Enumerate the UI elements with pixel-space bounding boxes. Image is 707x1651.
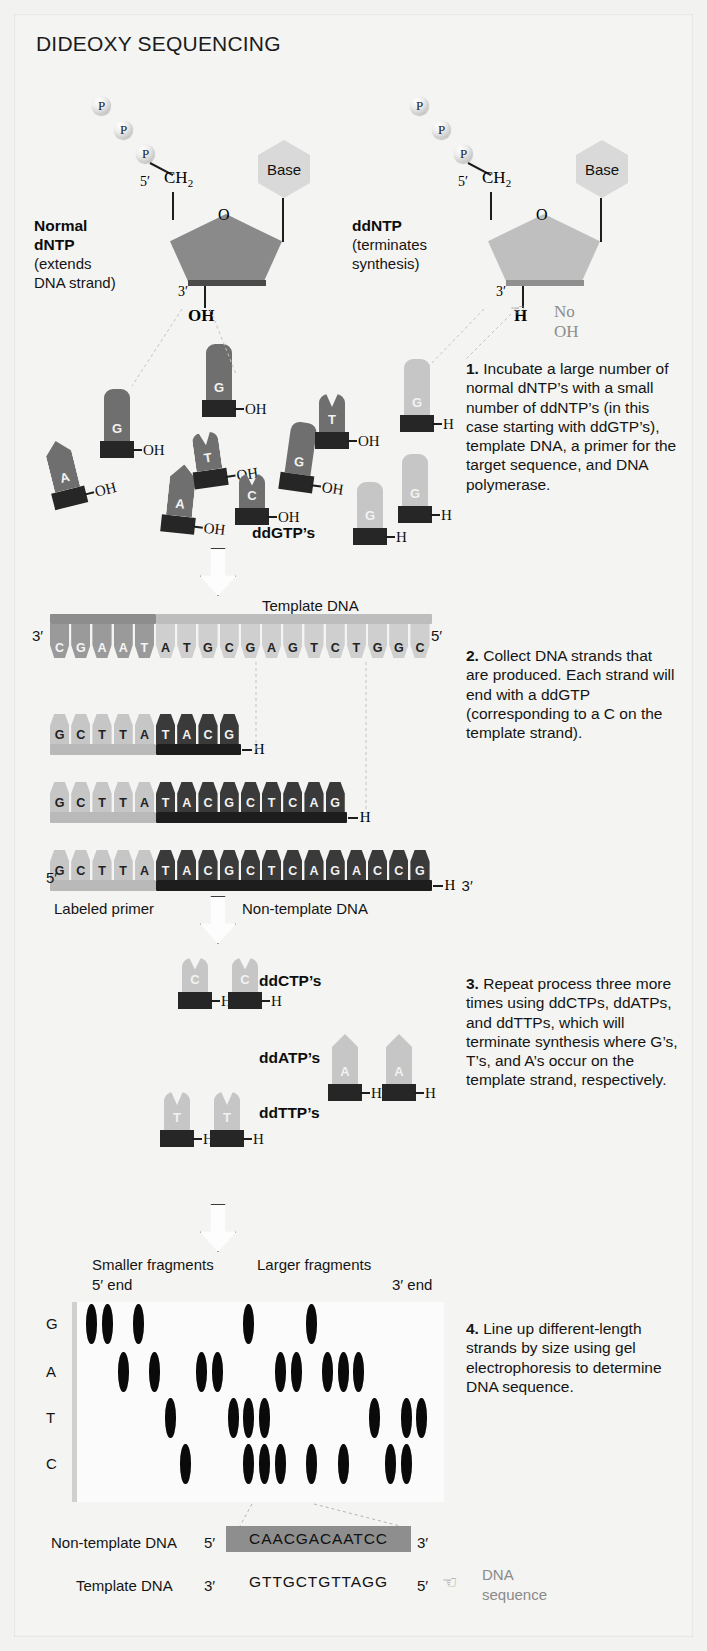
terminal-bond xyxy=(242,749,252,751)
ch2-label: CH2 xyxy=(164,168,193,189)
product-base: T xyxy=(92,850,111,880)
terminal-h-label: H xyxy=(254,741,265,758)
gel-band xyxy=(369,1398,380,1438)
gel-left-edge xyxy=(72,1302,77,1502)
readout-template-5: 5′ xyxy=(417,1577,428,1594)
phosphate-group-2: P xyxy=(432,120,451,139)
gel-band xyxy=(401,1444,412,1484)
product-base: A xyxy=(347,850,366,880)
ch2-label: CH2 xyxy=(482,168,511,189)
template-base: G xyxy=(241,624,260,658)
flow-arrow-1 xyxy=(200,548,236,596)
terminal-group-label: OH xyxy=(188,306,214,326)
product-base: G xyxy=(326,782,345,812)
nucleotide-G: GOH xyxy=(104,389,130,459)
nucleotide-base-block xyxy=(315,432,349,449)
gel-band xyxy=(212,1352,223,1392)
labeled-primer-label: Labeled primer xyxy=(54,900,154,917)
nucleotide-tail-label: H xyxy=(253,1131,264,1148)
template-base: A xyxy=(114,624,133,658)
base-bond xyxy=(282,198,284,242)
readout-nontemplate-5: 5′ xyxy=(204,1534,215,1551)
nucleotide-letter: T xyxy=(214,1110,240,1125)
nucleotide-bond xyxy=(132,449,142,451)
flow-arrow-3 xyxy=(200,1204,236,1252)
gel-band xyxy=(165,1398,176,1438)
page-title: DIDEOXY SEQUENCING xyxy=(36,32,281,56)
template-five-prime: 5′ xyxy=(431,627,442,644)
nontemplate-backbone xyxy=(156,880,432,891)
nucleotide-bond xyxy=(267,516,277,518)
gel-band xyxy=(228,1398,239,1438)
nucleotide-letter: T xyxy=(319,412,345,427)
nucleotide-T: TH xyxy=(214,1092,240,1148)
product-base: C xyxy=(198,850,217,880)
nucleotide-letter: C xyxy=(182,972,208,987)
nucleotide-base-block xyxy=(160,1130,194,1147)
nucleotide-C: CH xyxy=(182,958,208,1010)
nucleotide-bond xyxy=(234,408,244,410)
nucleotide-tail-label: H xyxy=(396,529,407,546)
nucleotide-letter: G xyxy=(404,395,430,410)
readout-template-label: Template DNA xyxy=(76,1577,173,1594)
nucleotide-bond xyxy=(242,1138,252,1140)
template-base: G xyxy=(389,624,408,658)
three-prime-label: 3′ xyxy=(496,284,506,300)
ch2-ring-bond xyxy=(172,192,174,220)
product-base: C xyxy=(283,850,302,880)
dna-callout-line1: DNA xyxy=(482,1566,514,1583)
nucleotide-base-block xyxy=(193,468,229,490)
template-base: T xyxy=(304,624,323,658)
template-base: T xyxy=(135,624,154,658)
product-base: T xyxy=(114,850,133,880)
nucleotide-letter: C xyxy=(232,972,258,987)
nontemplate-backbone xyxy=(156,812,347,823)
gel-lane-label-C: C xyxy=(46,1455,57,1472)
ddatp-label: ddATP’s xyxy=(259,1049,320,1067)
flow-arrow-2 xyxy=(200,896,236,944)
base-hexagon: Base xyxy=(258,140,310,198)
smaller-fragments-end: 5′ end xyxy=(92,1276,132,1293)
product-base: G xyxy=(220,782,239,812)
readout-template-3: 3′ xyxy=(204,1577,215,1594)
readout-nontemplate-sequence: CAACGACAATCC xyxy=(226,1526,411,1552)
nucleotide-tail-label: H xyxy=(441,507,452,524)
nucleotide-tail-label: H xyxy=(371,1085,382,1102)
gel-band xyxy=(385,1444,396,1484)
nucleotide-tail-label: OH xyxy=(203,520,226,539)
diagram-page: DIDEOXY SEQUENCING PPP5′CH2OBase3′OHNorm… xyxy=(0,0,707,1651)
nucleotide-base-block xyxy=(328,1084,362,1101)
gel-band xyxy=(133,1304,144,1344)
template-base: T xyxy=(177,624,196,658)
product-base: T xyxy=(92,714,111,744)
nucleotide-letter: G xyxy=(402,486,428,501)
product-base: C xyxy=(71,850,90,880)
nucleotide-T: TOH xyxy=(319,394,345,450)
step-1-number: 1. xyxy=(466,360,479,377)
nucleotide-base-block xyxy=(398,506,432,523)
nucleotide-G: GOH xyxy=(206,344,232,418)
template-base: G xyxy=(198,624,217,658)
nucleotide-A: AOH xyxy=(43,438,85,510)
template-base: C xyxy=(220,624,239,658)
terminal-h-label: H xyxy=(445,877,456,894)
nucleotide-tail-label: H xyxy=(443,416,454,433)
product-base: G xyxy=(410,850,429,880)
template-base: G xyxy=(283,624,302,658)
nucleotide-base-block xyxy=(400,415,434,432)
product-base: G xyxy=(220,850,239,880)
template-base: G xyxy=(368,624,387,658)
gel-band xyxy=(275,1352,286,1392)
primer-backbone xyxy=(50,812,156,823)
product-base: C xyxy=(71,714,90,744)
no-oh-callout: No OH xyxy=(554,302,579,342)
template-base: C xyxy=(410,624,429,658)
molecule-name: ddNTP(terminatessynthesis) xyxy=(352,216,472,273)
nucleotide-G: GH xyxy=(357,482,383,546)
product-base: A xyxy=(135,850,154,880)
nucleotide-letter: C xyxy=(239,488,265,503)
base-hexagon: Base xyxy=(576,140,628,198)
nucleotide-letter: A xyxy=(166,495,193,513)
terminal-bond xyxy=(433,885,443,887)
pointing-hand-icon: ☜ xyxy=(510,300,525,321)
